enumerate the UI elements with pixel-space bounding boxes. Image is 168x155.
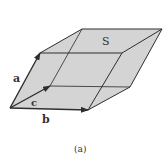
parallelepiped-diagram: a b c S (a) <box>0 0 168 155</box>
vector-a-label: a <box>13 72 20 85</box>
figure-caption: (a) <box>74 144 86 154</box>
vector-b-label: b <box>42 113 50 126</box>
face-s-label: S <box>102 35 110 48</box>
vector-c-label: c <box>31 97 37 108</box>
